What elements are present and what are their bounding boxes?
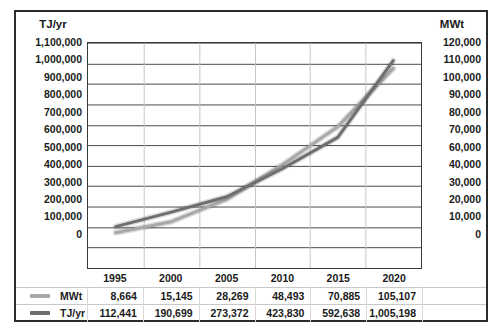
table-cell: 105,107 — [366, 288, 422, 305]
left-axis-tick-labels: 1,100,0001,000,000900,000800,000700,0006… — [18, 34, 86, 243]
left-axis-tick: 300,000 — [18, 174, 86, 191]
table-cell: 28,269 — [199, 288, 255, 305]
table-header-year: 2010 — [255, 270, 311, 287]
table-cell: 15,145 — [143, 288, 199, 305]
table-header-year: 2005 — [199, 270, 255, 287]
legend-swatch-mwt — [30, 294, 50, 298]
right-axis-tick: 0 — [416, 226, 484, 243]
table-column-separator — [143, 287, 144, 322]
table-header-year: 1995 — [87, 270, 143, 287]
left-axis-tick: 1,100,000 — [18, 34, 86, 51]
left-axis-tick: 700,000 — [18, 104, 86, 121]
legend-swatch-tjyr — [30, 311, 50, 315]
table-cell: 592,638 — [310, 305, 366, 322]
table-row-years: 199520002005201020152020 — [16, 270, 486, 287]
table-cell: 112,441 — [87, 305, 143, 322]
left-axis-title: TJ/yr — [20, 14, 86, 34]
table-header-year: 2000 — [143, 270, 199, 287]
table-cell: 273,372 — [199, 305, 255, 322]
left-axis-tick: 1,000,000 — [18, 51, 86, 68]
right-axis-tick: 110,000 — [416, 51, 484, 68]
left-axis-tick: 600,000 — [18, 121, 86, 138]
left-axis-tick: 800,000 — [18, 86, 86, 103]
left-axis-tick: 0 — [18, 226, 86, 243]
right-axis-tick: 60,000 — [416, 139, 484, 156]
right-axis-tick: 10,000 — [416, 208, 484, 225]
table-column-separator — [87, 287, 88, 322]
table-column-separator — [366, 287, 367, 322]
left-axis-tick: 900,000 — [18, 69, 86, 86]
series-line-shadow-mwt — [116, 68, 394, 232]
table-cell: 70,885 — [310, 288, 366, 305]
left-axis-tick: 100,000 — [18, 208, 86, 225]
right-axis-tick-labels: 120,000110,000100,00090,00080,00070,0006… — [416, 34, 484, 243]
table-cell: 423,830 — [255, 305, 311, 322]
left-axis-tick: 200,000 — [18, 191, 86, 208]
table-column-separator — [199, 287, 200, 322]
table-cell: 190,699 — [143, 305, 199, 322]
series-line-mwt — [116, 68, 394, 232]
chart-container: TJ/yr MWt 1,100,0001,000,000900,000800,0… — [14, 10, 488, 322]
right-axis-tick: 70,000 — [416, 121, 484, 138]
right-axis-tick: 100,000 — [416, 69, 484, 86]
series-line-shadow-tjyr — [116, 61, 394, 227]
table-column-separator — [255, 287, 256, 322]
table-column-separator — [310, 287, 311, 322]
table-header-year: 2015 — [310, 270, 366, 287]
chart-plot-svg — [88, 43, 421, 268]
right-axis-title: MWt — [422, 14, 482, 34]
right-axis-tick: 40,000 — [416, 156, 484, 173]
right-axis-tick: 20,000 — [416, 191, 484, 208]
right-axis-tick: 80,000 — [416, 104, 484, 121]
table-cell: 8,664 — [87, 288, 143, 305]
chart-data-table: 199520002005201020152020 MWt8,66415,1452… — [16, 270, 486, 322]
series-line-tjyr — [116, 61, 394, 227]
right-axis-tick: 30,000 — [416, 174, 484, 191]
plot-area — [87, 42, 422, 269]
table-header-year: 2020 — [366, 270, 422, 287]
left-axis-tick: 400,000 — [18, 156, 86, 173]
table-column-separator — [422, 287, 423, 322]
right-axis-tick: 90,000 — [416, 86, 484, 103]
table-cell: 1,005,198 — [366, 305, 422, 322]
left-axis-tick: 500,000 — [18, 139, 86, 156]
table-cell: 48,493 — [255, 288, 311, 305]
right-axis-tick: 120,000 — [416, 34, 484, 51]
